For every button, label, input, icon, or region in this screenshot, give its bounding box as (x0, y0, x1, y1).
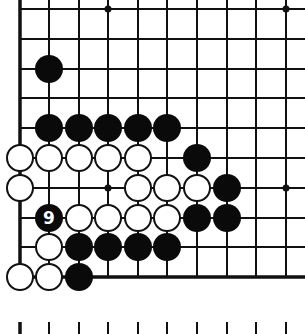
black-stone (94, 114, 122, 142)
white-stone (95, 145, 121, 171)
black-stone (153, 233, 181, 261)
black-stone (94, 233, 122, 261)
white-stone (95, 205, 121, 231)
white-stone (36, 264, 62, 290)
white-stone (154, 205, 180, 231)
bottom-tick-marks (20, 322, 286, 334)
black-stone: 9 (35, 204, 63, 232)
black-stone (183, 144, 211, 172)
white-stone (154, 175, 180, 201)
star-point (105, 6, 112, 13)
white-stone (125, 205, 151, 231)
go-board-diagram: 9 (0, 0, 305, 334)
star-point (283, 6, 290, 13)
white-stone (7, 145, 33, 171)
black-stone (124, 233, 152, 261)
white-stone (184, 175, 210, 201)
black-stone (35, 114, 63, 142)
star-point (283, 185, 290, 192)
white-stone (125, 145, 151, 171)
black-stone (213, 204, 241, 232)
white-stone (7, 264, 33, 290)
black-stone (183, 204, 211, 232)
black-stone (65, 114, 93, 142)
white-stone (125, 175, 151, 201)
black-stone (213, 174, 241, 202)
star-point (105, 185, 112, 192)
white-stone (66, 205, 92, 231)
white-stone (7, 175, 33, 201)
white-stone (36, 234, 62, 260)
move-number-label: 9 (43, 208, 55, 228)
black-stone (65, 263, 93, 291)
white-stone (66, 145, 92, 171)
white-stone (36, 145, 62, 171)
black-stone (65, 233, 93, 261)
black-stone (124, 114, 152, 142)
black-stone (153, 114, 181, 142)
black-stone (35, 55, 63, 83)
stones-layer: 9 (7, 55, 241, 291)
